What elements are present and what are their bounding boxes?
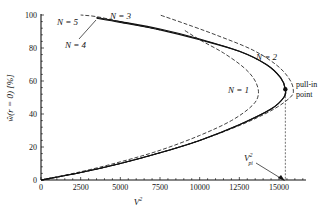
x-tick-label: 5000 <box>112 183 128 192</box>
y-tick-label: 0 <box>33 176 37 185</box>
curve-n1 <box>41 30 258 180</box>
x-axis-label: V2 <box>134 196 143 207</box>
x-tick-label: 12500 <box>229 183 249 192</box>
y-axis-label: ŵ(r = 0) [%] <box>5 74 15 122</box>
x-tick-label: 7500 <box>152 183 168 192</box>
label-n2: N = 2 <box>255 52 278 62</box>
vpi-label: V2pi <box>244 152 253 166</box>
label-n3: N = 3 <box>109 11 132 21</box>
pull-in-chart: 0250050007500100001250015000020406080100… <box>0 0 323 212</box>
label-n4: N = 4 <box>64 40 87 50</box>
x-tick-label: 10000 <box>190 183 210 192</box>
y-tick-label: 20 <box>29 143 37 152</box>
label-n5: N = 5 <box>56 17 79 27</box>
n4-leader-line <box>79 20 96 39</box>
x-tick-label: 0 <box>39 183 43 192</box>
y-tick-label: 100 <box>25 11 37 20</box>
y-tick-label: 60 <box>29 77 37 86</box>
y-tick-label: 80 <box>29 44 37 53</box>
vpi-arrow <box>256 163 282 179</box>
y-tick-label: 40 <box>29 110 37 119</box>
axes: 0250050007500100001250015000020406080100 <box>25 11 306 192</box>
chart-svg: 0250050007500100001250015000020406080100… <box>0 0 323 212</box>
pull-in-point-marker <box>283 87 287 91</box>
label-n1: N = 1 <box>227 85 249 95</box>
pull-in-label-2: point <box>296 90 313 99</box>
x-tick-label: 2500 <box>73 183 89 192</box>
x-tick-label: 15000 <box>269 183 289 192</box>
pull-in-label-1: pull-in <box>296 80 317 89</box>
